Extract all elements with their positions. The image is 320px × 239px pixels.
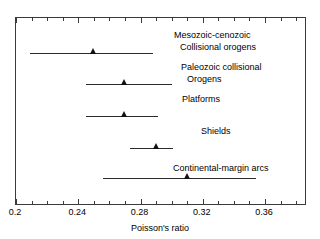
x-tick-minor [187, 201, 188, 204]
series-label: Paleozoic collisionalOrogens [181, 62, 262, 85]
x-axis-title: Poisson's ratio [0, 223, 320, 234]
series-label-line1: Shields [201, 126, 231, 136]
triangle-up-icon [153, 143, 159, 149]
x-tick-minor [32, 201, 33, 204]
x-tick-major-top [16, 18, 17, 23]
x-tick-label: 0.32 [193, 207, 211, 218]
x-tick-minor-top [234, 18, 235, 21]
x-tick-major [203, 199, 204, 204]
plot-frame [15, 17, 306, 205]
series-label-line1: Paleozoic collisional [181, 62, 262, 72]
x-tick-minor [63, 201, 64, 204]
x-tick-minor [156, 201, 157, 204]
x-tick-minor-top [94, 18, 95, 21]
range-line [103, 178, 256, 179]
series-label-line2: Orogens [181, 74, 262, 86]
triangle-up-icon [121, 79, 127, 85]
chart-figure: 0.20.240.280.320.36 Poisson's ratio Meso… [0, 0, 320, 239]
x-tick-minor [125, 201, 126, 204]
x-tick-major-top [203, 18, 204, 23]
x-tick-minor-top [218, 18, 219, 21]
x-tick-minor-top [172, 18, 173, 21]
x-tick-minor [234, 201, 235, 204]
x-tick-minor-top [187, 18, 188, 21]
x-tick-major-top [78, 18, 79, 23]
x-tick-minor [94, 201, 95, 204]
x-tick-minor-top [281, 18, 282, 21]
series-label-line1: Mesozoic-cenozoic [174, 30, 251, 40]
x-tick-minor-top [249, 18, 250, 21]
x-tick-major [265, 199, 266, 204]
range-line [130, 148, 174, 149]
x-tick-minor-top [125, 18, 126, 21]
x-tick-minor-top [156, 18, 157, 21]
x-tick-minor-top [109, 18, 110, 21]
series-label: Mesozoic-cenozoicCollisional orogens [174, 30, 256, 53]
x-tick-label: 0.28 [131, 207, 149, 218]
x-tick-minor [249, 201, 250, 204]
x-tick-major [16, 199, 17, 204]
x-tick-minor [172, 201, 173, 204]
triangle-up-icon [90, 48, 96, 54]
x-tick-minor-top [32, 18, 33, 21]
series-label-line1: Continental-margin arcs [173, 163, 269, 173]
triangle-up-icon [121, 111, 127, 117]
x-tick-label: 0.36 [255, 207, 273, 218]
x-tick-major-top [265, 18, 266, 23]
x-tick-minor [109, 201, 110, 204]
x-tick-major [78, 199, 79, 204]
x-tick-label: 0.24 [68, 207, 86, 218]
x-tick-minor-top [296, 18, 297, 21]
x-tick-minor-top [47, 18, 48, 21]
series-label-line1: Platforms [182, 94, 220, 104]
series-label: Continental-margin arcs [173, 163, 269, 175]
series-label: Platforms [182, 94, 220, 106]
range-line [86, 84, 172, 85]
x-tick-minor-top [63, 18, 64, 21]
x-tick-minor [218, 201, 219, 204]
x-tick-minor [281, 201, 282, 204]
x-tick-label: 0.2 [9, 207, 22, 218]
x-tick-major [141, 199, 142, 204]
x-tick-minor [296, 201, 297, 204]
x-tick-major-top [141, 18, 142, 23]
series-label-line2: Collisional orogens [174, 42, 256, 54]
x-tick-minor [47, 201, 48, 204]
series-label: Shields [201, 126, 231, 138]
